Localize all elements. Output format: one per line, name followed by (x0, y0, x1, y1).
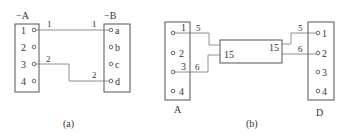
terminal-d-3: 3 (322, 67, 327, 78)
terminal-dot (32, 79, 36, 83)
terminal-dot (32, 28, 36, 32)
wire-a1-label: 5 (196, 23, 201, 33)
wire-1-label-right: 1 (92, 19, 97, 29)
wire-a1 (175, 33, 220, 45)
terminal-b-c: c (115, 59, 120, 70)
terminal-a-3: 3 (21, 59, 26, 70)
wire-d1-label: 5 (298, 23, 303, 33)
terminal-dot (171, 89, 175, 93)
block-d-label: D (316, 107, 323, 118)
wire-d2-label: 6 (298, 44, 303, 54)
wiring-diagram: −A 1 2 3 4 −B a b c d 1 1 2 2 (a) 1 2 (0, 0, 347, 139)
block-b-label: −B (104, 10, 117, 21)
wire-2 (36, 64, 109, 81)
terminal-a-4: 4 (179, 86, 184, 97)
terminal-dot (316, 51, 320, 55)
terminal-dot (109, 45, 113, 49)
block-a (165, 22, 190, 100)
terminal-dot (109, 79, 113, 83)
middle-right-label: 15 (269, 42, 279, 53)
terminal-d-2: 2 (322, 48, 327, 59)
terminal-dot (109, 62, 113, 66)
wire-1-label-left: 1 (47, 19, 52, 29)
terminal-a-3: 3 (181, 61, 186, 72)
wire-a3-label: 6 (195, 62, 200, 72)
terminal-d-4: 4 (322, 86, 327, 97)
terminal-d-1: 1 (322, 28, 327, 39)
caption-b: (b) (246, 118, 258, 130)
block-d (308, 22, 334, 100)
terminal-dot (171, 31, 175, 35)
terminal-dot (32, 45, 36, 49)
terminal-dot (171, 70, 175, 74)
terminal-a-2: 2 (179, 48, 184, 59)
block-a-label: A (174, 104, 182, 115)
wire-2-label-right: 2 (92, 70, 97, 80)
terminal-dot (316, 70, 320, 74)
terminal-a-2: 2 (21, 42, 26, 53)
caption-a: (a) (63, 118, 74, 130)
terminal-a-1: 1 (21, 25, 26, 36)
wire-2-label-left: 2 (46, 54, 51, 64)
terminal-a-4: 4 (21, 76, 26, 87)
terminal-a-1: 1 (181, 22, 186, 33)
block-a-label: −A (16, 10, 30, 21)
terminal-b-b: b (115, 42, 120, 53)
diagram-a: −A 1 2 3 4 −B a b c d 1 1 2 2 (a) (15, 10, 130, 130)
terminal-dot (316, 31, 320, 35)
middle-left-label: 15 (224, 49, 234, 60)
terminal-dot (32, 62, 36, 66)
terminal-b-d: d (115, 76, 120, 87)
terminal-b-a: a (115, 25, 120, 36)
terminal-dot (171, 51, 175, 55)
diagram-b: 1 2 3 4 A 15 15 5 6 5 6 1 2 3 4 D (b) (165, 22, 334, 130)
wire-d1 (282, 33, 316, 44)
terminal-dot (109, 28, 113, 32)
terminal-dot (316, 89, 320, 93)
